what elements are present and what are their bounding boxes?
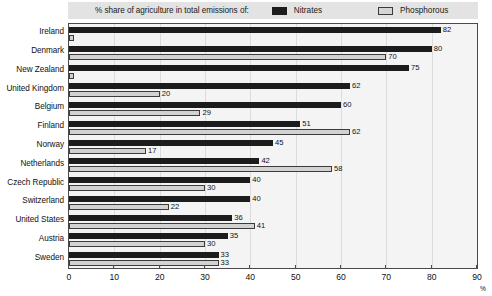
bar-value-label: 62: [352, 82, 360, 89]
legend-entry-nitrates: Nitrates: [272, 6, 322, 15]
category-label: Czech Republic: [0, 178, 64, 187]
chart-row: 3641: [69, 214, 477, 233]
bar-value-label: 80: [434, 45, 442, 52]
bar-value-label: 51: [302, 120, 310, 127]
axis-tick-label: 30: [200, 272, 210, 282]
bar-nitrates: [69, 158, 259, 164]
bar-value-label: 40: [252, 195, 260, 202]
bar-value-label: 82: [443, 26, 451, 33]
bar-value-label: 62: [352, 128, 360, 135]
chart-row: 3530: [69, 232, 477, 251]
bar-value-label: 36: [234, 214, 242, 221]
legend-label-phosphorous: Phosphorous: [400, 6, 448, 15]
category-label: Switzerland: [0, 196, 64, 205]
category-label: United States: [0, 215, 64, 224]
bar-value-label: 45: [275, 139, 283, 146]
bar-nitrates: [69, 215, 232, 221]
axis-tick-mark: [113, 265, 114, 269]
bar-nitrates: [69, 252, 219, 258]
bar-value-label: 29: [202, 109, 210, 116]
chart-row: 4258: [69, 157, 477, 176]
chart-row: 4517: [69, 139, 477, 158]
bar-phosphorous: [69, 110, 200, 116]
bar-value-label: 17: [148, 147, 156, 154]
chart-row: 6220: [69, 82, 477, 101]
category-label: Denmark: [0, 46, 64, 55]
axis-tick-label: 40: [246, 272, 256, 282]
bar-nitrates: [69, 121, 300, 127]
bar-nitrates: [69, 65, 409, 71]
chart-row: 75: [69, 64, 477, 83]
bar-nitrates: [69, 83, 350, 89]
axis-tick-mark: [204, 265, 205, 269]
bar-value-label: 20: [162, 90, 170, 97]
legend-caption: % share of agriculture in total emission…: [95, 6, 249, 15]
value-axis-unit: %: [480, 285, 486, 292]
chart-row: 82: [69, 26, 477, 45]
bar-nitrates: [69, 27, 441, 33]
bar-value-label: 40: [252, 176, 260, 183]
chart-row: 8070: [69, 45, 477, 64]
axis-tick-mark: [249, 265, 250, 269]
axis-tick-label: 20: [155, 272, 165, 282]
bar-nitrates: [69, 233, 228, 239]
category-label: Sweden: [0, 253, 64, 262]
bar-phosphorous: [69, 185, 205, 191]
category-label: New Zealand: [0, 65, 64, 74]
axis-tick-mark: [68, 265, 69, 269]
value-axis: 0102030405060708090: [68, 269, 478, 285]
axis-tick-mark: [295, 265, 296, 269]
axis-tick-mark: [431, 265, 432, 269]
bar-value-label: 42: [261, 157, 269, 164]
bar-value-label: 33: [221, 251, 229, 258]
chart-legend: % share of agriculture in total emission…: [68, 2, 478, 19]
chart-row: 3333: [69, 251, 477, 270]
bar-value-label: 75: [411, 64, 419, 71]
axis-tick-label: 80: [427, 272, 437, 282]
legend-label-nitrates: Nitrates: [294, 6, 322, 15]
bar-nitrates: [69, 196, 250, 202]
bar-phosphorous: [69, 73, 74, 79]
bar-nitrates: [69, 140, 273, 146]
chart-bars: 8280707562206029516245174258403040223641…: [69, 24, 477, 268]
category-label: Norway: [0, 140, 64, 149]
axis-tick-mark: [476, 265, 477, 269]
axis-tick-mark: [340, 265, 341, 269]
legend-swatch-nitrates-icon: [272, 7, 287, 15]
axis-tick-label: 90: [472, 272, 482, 282]
bar-phosphorous: [69, 260, 219, 266]
chart-row: 4022: [69, 195, 477, 214]
axis-tick-label: 0: [67, 272, 72, 282]
chart-row: 4030: [69, 176, 477, 195]
bar-value-label: 22: [171, 203, 179, 210]
bar-phosphorous: [69, 148, 146, 154]
bar-phosphorous: [69, 166, 332, 172]
axis-tick-label: 60: [336, 272, 346, 282]
category-label: Finland: [0, 121, 64, 130]
bar-value-label: 35: [230, 232, 238, 239]
category-axis-labels: IrelandDenmarkNew ZealandUnited KingdomB…: [0, 23, 64, 269]
bar-value-label: 33: [221, 259, 229, 266]
axis-tick-label: 70: [382, 272, 392, 282]
category-label: Belgium: [0, 102, 64, 111]
bar-value-label: 70: [388, 53, 396, 60]
legend-swatch-phosphorous-icon: [378, 7, 393, 15]
bar-phosphorous: [69, 35, 74, 41]
category-label: United Kingdom: [0, 84, 64, 93]
chart-row: 6029: [69, 101, 477, 120]
bar-value-label: 41: [257, 222, 265, 229]
bar-nitrates: [69, 46, 432, 52]
category-label: Ireland: [0, 27, 64, 36]
legend-entry-phosphorous: Phosphorous: [378, 6, 448, 15]
bar-phosphorous: [69, 241, 205, 247]
axis-tick-mark: [159, 265, 160, 269]
bar-phosphorous: [69, 223, 255, 229]
bar-value-label: 30: [207, 240, 215, 247]
axis-tick-label: 50: [291, 272, 301, 282]
bar-phosphorous: [69, 204, 169, 210]
bar-value-label: 30: [207, 184, 215, 191]
category-label: Netherlands: [0, 159, 64, 168]
chart-plot-area: 8280707562206029516245174258403040223641…: [68, 23, 478, 269]
bar-phosphorous: [69, 129, 350, 135]
bar-value-label: 60: [343, 101, 351, 108]
